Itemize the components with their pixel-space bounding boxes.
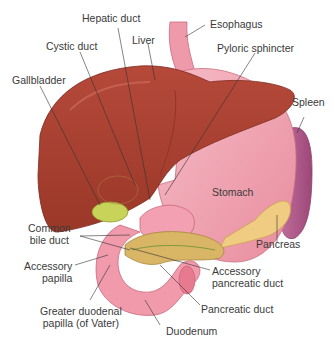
gallbladder bbox=[92, 202, 128, 222]
label-pancreas: Pancreas bbox=[256, 238, 300, 250]
esophagus bbox=[169, 22, 196, 75]
duodenum-end bbox=[179, 266, 195, 294]
label-accessory-pancreatic-duct: Accessory pancreatic duct bbox=[212, 265, 283, 289]
label-cystic-duct: Cystic duct bbox=[46, 40, 97, 52]
label-stomach: Stomach bbox=[212, 186, 253, 198]
label-esophagus: Esophagus bbox=[210, 18, 263, 30]
label-gallbladder: Gallbladder bbox=[12, 74, 66, 86]
label-pyloric-sphincter: Pyloric sphincter bbox=[217, 42, 294, 54]
label-hepatic-duct: Hepatic duct bbox=[82, 12, 140, 24]
label-liver: Liver bbox=[132, 34, 155, 46]
label-common-bile-duct: Common bile duct bbox=[28, 222, 71, 246]
label-accessory-papilla: Accessory papilla bbox=[22, 260, 72, 284]
label-greater-duodenal-papilla: Greater duodenal papilla (of Vater) bbox=[40, 305, 122, 329]
label-duodenum: Duodenum bbox=[166, 325, 217, 337]
label-pancreatic-duct: Pancreatic duct bbox=[201, 303, 273, 315]
label-spleen: Spleen bbox=[292, 96, 325, 108]
